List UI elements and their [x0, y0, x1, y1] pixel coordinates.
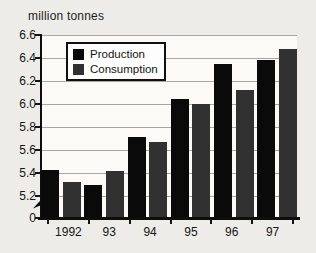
x-label-93: 93 — [89, 225, 129, 239]
bar-production-94 — [128, 137, 146, 218]
bar-production-95 — [171, 99, 189, 218]
x-label-94: 94 — [130, 225, 170, 239]
x-tick — [129, 219, 131, 224]
x-tick — [170, 219, 172, 224]
bar-consumption-95 — [192, 104, 210, 218]
y-tick — [35, 149, 40, 151]
bar-production-93 — [84, 185, 102, 219]
y-axis-unit-label: million tonnes — [28, 9, 104, 23]
bar-consumption-96 — [236, 90, 254, 218]
bar-production-96 — [214, 64, 232, 218]
y-label-6.6: 6.6 — [6, 28, 36, 42]
y-label-5.4: 5.4 — [6, 166, 36, 180]
legend-item-consumption: Consumption — [73, 63, 158, 75]
bar-production-97 — [257, 60, 275, 218]
x-tick — [251, 219, 253, 224]
x-tick — [210, 219, 212, 224]
x-label-96: 96 — [212, 225, 252, 239]
axis-break-icon — [32, 199, 42, 209]
y-tick — [35, 172, 40, 174]
bar-chart-figure: million tonnes Production Consumption 6.… — [0, 0, 316, 253]
y-tick — [35, 80, 40, 82]
y-label-6.2: 6.2 — [6, 74, 36, 88]
y-tick — [35, 126, 40, 128]
bar-consumption-1992 — [63, 182, 81, 218]
legend-label-production: Production — [90, 48, 145, 60]
y-label-6.4: 6.4 — [6, 51, 36, 65]
bar-production-1992 — [41, 170, 59, 218]
x-label-1992: 1992 — [48, 225, 88, 239]
production-swatch-icon — [73, 49, 84, 60]
legend-label-consumption: Consumption — [90, 63, 158, 75]
x-label-95: 95 — [171, 225, 211, 239]
y-tick — [35, 103, 40, 105]
y-label-5.6: 5.6 — [6, 143, 36, 157]
y-tick — [35, 34, 40, 36]
x-tick — [47, 219, 49, 224]
consumption-swatch-icon — [73, 64, 84, 75]
bar-consumption-93 — [106, 171, 124, 218]
x-tick — [292, 219, 294, 224]
y-label-6.0: 6.0 — [6, 97, 36, 111]
bar-consumption-94 — [149, 142, 167, 218]
x-label-97: 97 — [253, 225, 293, 239]
y-label-0: 0 — [6, 211, 36, 225]
y-axis — [40, 34, 42, 219]
legend-item-production: Production — [73, 48, 158, 60]
y-label-5.8: 5.8 — [6, 120, 36, 134]
y-tick — [35, 217, 40, 219]
y-tick — [35, 195, 40, 197]
legend: Production Consumption — [66, 42, 166, 81]
y-tick — [35, 57, 40, 59]
x-tick — [88, 219, 90, 224]
bar-consumption-97 — [279, 49, 297, 218]
